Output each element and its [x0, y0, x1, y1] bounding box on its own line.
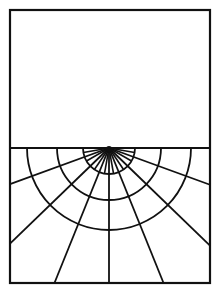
- polar-grid-figure: [0, 0, 217, 288]
- long-ray-1: [10, 148, 109, 184]
- figure-svg: [0, 0, 217, 288]
- radial-rays: [10, 148, 210, 283]
- long-ray-7: [109, 148, 210, 185]
- center-hub: [106, 146, 112, 152]
